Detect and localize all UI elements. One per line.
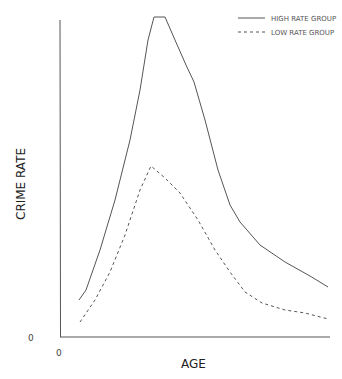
x-zero-label: 0 — [56, 348, 62, 358]
y-axis-label: CRIME RATE — [14, 148, 28, 220]
x-axis-label: AGE — [181, 357, 206, 371]
legend-high-label: HIGH RATE GROUP — [271, 15, 336, 23]
y-axis — [60, 20, 61, 337]
legend-low-label: LOW RATE GROUP — [271, 29, 334, 37]
chart-canvas: HIGH RATE GROUP LOW RATE GROUP CRIME RAT… — [0, 0, 342, 379]
y-zero-label: 0 — [28, 333, 34, 343]
legend: HIGH RATE GROUP LOW RATE GROUP — [238, 15, 336, 37]
